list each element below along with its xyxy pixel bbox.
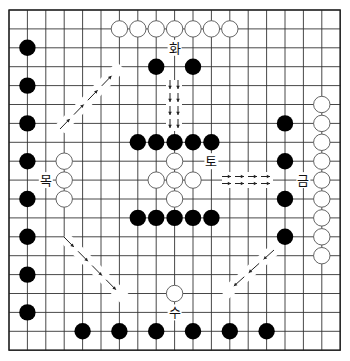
label-metal: 금 bbox=[297, 173, 309, 188]
black-stone bbox=[185, 58, 201, 74]
black-stone bbox=[19, 304, 35, 320]
black-stone bbox=[166, 210, 182, 226]
white-stone bbox=[314, 115, 330, 131]
label-earth: 토 bbox=[205, 154, 217, 169]
white-stone bbox=[314, 134, 330, 150]
white-stone bbox=[56, 153, 72, 169]
go-board-diagram: 화목토금수 bbox=[0, 0, 350, 361]
black-stone bbox=[277, 191, 293, 207]
white-stone bbox=[166, 191, 182, 207]
black-stone bbox=[74, 323, 90, 339]
white-stone bbox=[130, 21, 146, 37]
black-stone bbox=[19, 266, 35, 282]
white-stone bbox=[185, 172, 201, 188]
black-stone bbox=[19, 229, 35, 245]
white-stone bbox=[314, 96, 330, 112]
white-stone bbox=[314, 229, 330, 245]
black-stone bbox=[277, 229, 293, 245]
white-stone bbox=[314, 153, 330, 169]
black-stone bbox=[130, 134, 146, 150]
black-stone bbox=[277, 115, 293, 131]
black-stone bbox=[277, 153, 293, 169]
white-stone bbox=[166, 172, 182, 188]
label-fire: 화 bbox=[169, 41, 181, 56]
white-stone bbox=[166, 21, 182, 37]
white-stone bbox=[203, 21, 219, 37]
white-stone bbox=[56, 172, 72, 188]
white-stone bbox=[314, 172, 330, 188]
white-stone bbox=[56, 191, 72, 207]
black-stone bbox=[148, 323, 164, 339]
white-stone bbox=[222, 21, 238, 37]
white-stone bbox=[314, 248, 330, 264]
black-stone bbox=[203, 134, 219, 150]
black-stone bbox=[166, 134, 182, 150]
white-stone bbox=[148, 172, 164, 188]
black-stone bbox=[19, 40, 35, 56]
black-stone bbox=[19, 77, 35, 93]
white-stone bbox=[314, 191, 330, 207]
black-stone bbox=[185, 323, 201, 339]
black-stone bbox=[148, 210, 164, 226]
black-stone bbox=[19, 191, 35, 207]
black-stone bbox=[258, 323, 274, 339]
black-stone bbox=[19, 153, 35, 169]
label-water: 수 bbox=[169, 305, 181, 320]
label-wood: 목 bbox=[40, 173, 52, 188]
white-stone bbox=[166, 285, 182, 301]
white-stone bbox=[166, 153, 182, 169]
white-stone bbox=[111, 21, 127, 37]
black-stone bbox=[222, 323, 238, 339]
black-stone bbox=[185, 210, 201, 226]
black-stone bbox=[185, 134, 201, 150]
black-stone bbox=[148, 134, 164, 150]
black-stone bbox=[111, 323, 127, 339]
black-stone bbox=[19, 115, 35, 131]
black-stone bbox=[130, 210, 146, 226]
white-stone bbox=[148, 21, 164, 37]
black-stone bbox=[203, 210, 219, 226]
black-stone bbox=[148, 58, 164, 74]
go-board: 화목토금수 bbox=[0, 0, 350, 361]
white-stone bbox=[314, 210, 330, 226]
white-stone bbox=[185, 21, 201, 37]
